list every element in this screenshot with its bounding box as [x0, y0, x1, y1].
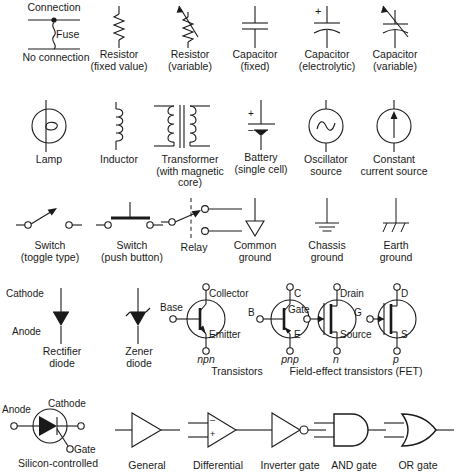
- oscillator-source-icon: [296, 98, 356, 154]
- symbol-cell-capacitor-electrolytic: + Capacitor (electrolytic): [298, 4, 356, 74]
- pin-anode-rectifier: Anode: [12, 326, 41, 337]
- capacitor-variable-icon: [370, 4, 424, 50]
- and-gate-keyword: AND: [331, 459, 353, 471]
- label-amp-general: General: [112, 460, 182, 472]
- label-capacitor-variable: Capacitor (variable): [354, 49, 436, 72]
- group-label-transistors: Transistors: [182, 366, 292, 378]
- label-npn: npn: [182, 354, 230, 366]
- pin-gate-scr: Gate: [74, 444, 96, 455]
- symbol-cell-transformer: Transformer (with magnetic core): [150, 100, 230, 178]
- constant-current-source-icon: [364, 98, 424, 154]
- lamp-icon: [16, 98, 86, 154]
- input-minus-differential: –: [210, 415, 215, 426]
- symbol-cell-resistor-fixed: Resistor (fixed value): [92, 4, 146, 74]
- or-gate-icon: [382, 404, 458, 458]
- symbol-cell-constant-current-source: Constant current source: [364, 98, 424, 170]
- fet-p-channel-icon: [352, 282, 424, 356]
- switch-pushbutton-icon: [94, 194, 170, 240]
- switch-toggle-icon: [14, 200, 90, 240]
- label-resistor-fixed: Resistor (fixed value): [78, 49, 160, 72]
- symbol-cell-common-ground: Common ground: [226, 196, 284, 262]
- symbol-cell-chassis-ground: Chassis ground: [298, 196, 356, 262]
- symbol-cell-fet-p: G D S p: [352, 282, 424, 374]
- or-gate-keyword: OR: [398, 459, 414, 471]
- symbol-cell-inductor: Inductor: [92, 100, 146, 170]
- capacitor-fixed-icon: [228, 4, 282, 50]
- label-switch-toggle: Switch (toggle type): [4, 240, 96, 263]
- label-scr: Silicon-controlled: [0, 458, 116, 470]
- amplifier-general-icon: [106, 404, 186, 458]
- battery-minus: –: [248, 124, 254, 135]
- label-fet-p: p: [374, 354, 418, 366]
- resistor-fixed-icon: [92, 4, 146, 50]
- symbol-cell-rectifier-diode: Cathode Anode Rectifier diode: [4, 286, 84, 370]
- symbol-cell-battery: + – Battery (single cell): [234, 98, 288, 168]
- label-or-gate: OR gate: [372, 460, 458, 472]
- chassis-ground-icon: [298, 196, 356, 242]
- symbol-cell-capacitor-variable: Capacitor (variable): [370, 4, 424, 74]
- rectifier-diode-icon: [4, 286, 84, 348]
- earth-ground-icon: [368, 196, 424, 242]
- symbol-cell-earth-ground: Earth ground: [368, 196, 424, 262]
- label-earth-ground: Earth ground: [356, 240, 436, 263]
- symbol-cell-lamp: Lamp: [16, 98, 86, 170]
- common-ground-icon: [226, 196, 284, 242]
- symbol-cell-or-gate: OR gate: [382, 404, 458, 473]
- group-label-fets: Field-effect transistors (FET): [284, 366, 428, 378]
- input-plus-differential: +: [210, 429, 215, 440]
- inductor-icon: [92, 100, 146, 154]
- symbol-cell-resistor-variable: Resistor (variable): [163, 4, 217, 74]
- capacitor-electrolytic-icon: [298, 4, 356, 50]
- label-constant-current-source: Constant current source: [346, 154, 442, 177]
- resistor-variable-icon: [163, 4, 217, 50]
- transformer-icon: [150, 100, 230, 156]
- label-lamp: Lamp: [16, 154, 82, 166]
- symbol-cell-switch-toggle: Switch (toggle type): [14, 200, 90, 262]
- battery-plus: +: [248, 108, 254, 119]
- polarity-plus-electrolytic: +: [315, 6, 321, 17]
- symbol-cell-capacitor-fixed: Capacitor (fixed): [228, 4, 282, 74]
- label-fuse: Fuse: [56, 29, 96, 41]
- label-rectifier-diode: Rectifier diode: [22, 346, 102, 369]
- symbol-cell-amp-general: General: [106, 404, 186, 473]
- battery-icon: [234, 98, 288, 154]
